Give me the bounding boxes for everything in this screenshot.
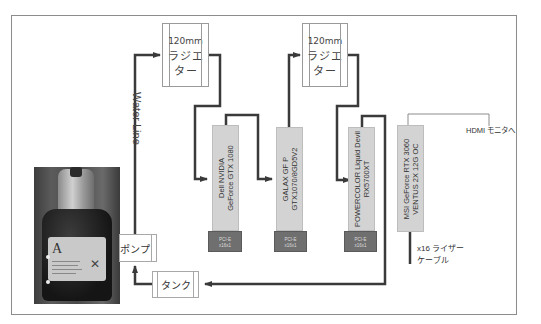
- pump-box: ポンプ: [119, 234, 157, 262]
- warning-a-icon: A: [52, 241, 62, 257]
- riser-label-line2: ケーブル: [417, 254, 449, 265]
- radiator-2: 120mm ラジエ ター: [302, 23, 348, 87]
- radiator-1-name-line1: ラジエ: [163, 49, 208, 64]
- pipe-gtx1070-to-radiator2: [289, 55, 300, 137]
- pcie-slot-1-line2: x16x1: [209, 243, 241, 249]
- riser-label-line1: x16 ライザー: [417, 242, 464, 253]
- gpu-gtx1070: GALAX GF P GTX1070/8GD5V2: [276, 127, 303, 231]
- pump-photo: A ✕: [34, 167, 120, 304]
- gpu-gtx1070-line2: GTX1070/8GD5V2: [290, 148, 299, 211]
- gpu-rx5700xt: POWERCOLOR Liquid Devil RX5700XT: [348, 127, 375, 231]
- radiator-2-name-line2: ター: [303, 64, 347, 79]
- gpu-gtx1070-line1: GALAX GF P: [281, 148, 290, 211]
- radiator-1: 120mm ラジエ ター: [162, 23, 209, 87]
- gpu-rtx3060-line2: VENTUS 2X 12G OC: [411, 138, 420, 218]
- radiator-2-size: 120mm: [303, 34, 347, 49]
- pipe-tank-to-pump: [135, 266, 152, 284]
- bottle-label: A ✕: [48, 237, 106, 281]
- gpu-rx5700xt-line1: POWERCOLOR Liquid Devil: [353, 131, 362, 227]
- gpu-rx5700xt-line2: RX5700XT: [362, 131, 371, 227]
- gpu-gtx1080-line1: Dell NVIDIA: [217, 145, 226, 210]
- pump-label: ポンプ: [120, 241, 150, 256]
- gpu-rtx3060-line1: MSI GeForce RTX 3060: [402, 138, 411, 218]
- water-line-label: Water Line: [131, 92, 143, 145]
- pcie-slot-3-line2: x16x1: [345, 243, 376, 249]
- pcie-slot-3: PCI-E x16x1: [344, 231, 377, 252]
- tank-box: タンク: [152, 271, 199, 298]
- gpu-gtx1080: Dell NVIDIA GeForce GTX 1080: [212, 125, 239, 231]
- pcie-slot-1: PCI-E x16x1: [208, 231, 242, 252]
- radiator-1-size: 120mm: [163, 34, 208, 49]
- gpu-gtx1080-line2: GeForce GTX 1080: [226, 145, 235, 210]
- hazard-x-icon: ✕: [90, 257, 100, 271]
- radiator-2-name-line1: ラジエ: [303, 49, 347, 64]
- tank-label: タンク: [161, 277, 191, 292]
- pcie-slot-2-line2: x16x1: [275, 243, 306, 249]
- gpu-rtx3060: MSI GeForce RTX 3060 VENTUS 2X 12G OC: [397, 125, 424, 232]
- bottle-cap: [70, 167, 82, 177]
- radiator-1-name-line2: ター: [163, 64, 208, 79]
- pcie-slot-2: PCI-E x16x1: [274, 231, 307, 252]
- hdmi-label: HDMI モニタへ: [466, 124, 515, 135]
